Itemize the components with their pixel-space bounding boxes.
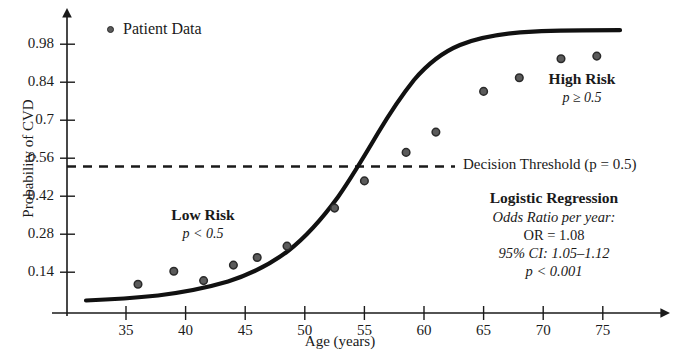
annotation-low-risk: Low Risk p < 0.5 bbox=[128, 206, 278, 242]
data-point bbox=[283, 242, 291, 250]
data-point bbox=[361, 177, 369, 185]
decision-threshold-label: Decision Threshold (p = 0.5) bbox=[463, 156, 637, 173]
annotation-low-risk-title: Low Risk bbox=[128, 206, 278, 225]
data-point bbox=[593, 52, 601, 60]
xtick-label-70: 70 bbox=[523, 322, 563, 339]
stats-title: Logistic Regression bbox=[441, 188, 667, 208]
xtick-label-65: 65 bbox=[464, 322, 504, 339]
annotation-high-risk-subtitle: p ≥ 0.5 bbox=[502, 89, 662, 106]
xtick-label-40: 40 bbox=[166, 322, 206, 339]
xtick-label-35: 35 bbox=[106, 322, 146, 339]
data-point bbox=[331, 204, 339, 212]
data-point bbox=[200, 277, 208, 285]
x-axis-label: Age (years) bbox=[250, 333, 430, 350]
data-point bbox=[230, 261, 238, 269]
data-point bbox=[432, 128, 440, 136]
stats-line-pvalue: p < 0.001 bbox=[441, 262, 667, 280]
data-point bbox=[253, 254, 261, 262]
legend: Patient Data bbox=[107, 20, 202, 38]
y-axis-label: Probability of CVD bbox=[20, 69, 37, 249]
annotation-high-risk-title: High Risk bbox=[502, 70, 662, 89]
data-point bbox=[480, 88, 488, 96]
data-point bbox=[557, 55, 565, 63]
data-point bbox=[134, 280, 142, 288]
stats-line-odds-ratio: Odds Ratio per year: bbox=[441, 208, 667, 226]
ytick-label-014: 0.14 bbox=[0, 263, 54, 280]
annotation-low-risk-subtitle: p < 0.5 bbox=[128, 225, 278, 242]
annotation-high-risk: High Risk p ≥ 0.5 bbox=[502, 70, 662, 106]
legend-marker-icon bbox=[107, 26, 114, 33]
xtick-label-75: 75 bbox=[583, 322, 623, 339]
data-point bbox=[402, 149, 410, 157]
chart-figure: 0.98 0.84 0.7 0.56 0.42 0.28 0.14 35 40 … bbox=[0, 0, 678, 360]
stats-line-or-value: OR = 1.08 bbox=[441, 226, 667, 244]
data-point bbox=[170, 267, 178, 275]
legend-label-patient-data: Patient Data bbox=[123, 20, 202, 38]
ytick-label-098: 0.98 bbox=[0, 35, 54, 52]
stats-annotation: Logistic Regression Odds Ratio per year:… bbox=[441, 188, 667, 281]
stats-line-ci: 95% CI: 1.05–1.12 bbox=[441, 244, 667, 262]
plot-canvas bbox=[0, 0, 678, 360]
